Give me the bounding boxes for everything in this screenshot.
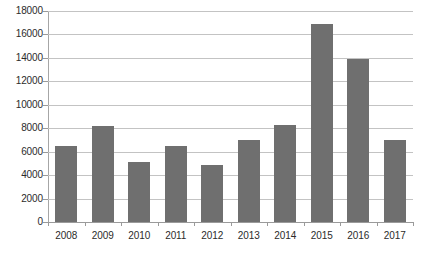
x-axis-tick-mark: [194, 222, 195, 226]
x-axis-tick-label: 2015: [304, 230, 341, 242]
x-axis: 2008200920102011201220132014201520162017: [48, 222, 413, 256]
y-axis-tick-label: 0: [0, 217, 43, 227]
bar: [201, 165, 223, 222]
y-axis-tick-label: 8000: [0, 123, 43, 133]
y-axis-tick-label: 4000: [0, 170, 43, 180]
x-axis-tick-mark: [340, 222, 341, 226]
bar: [165, 146, 187, 222]
x-axis-tick-mark: [85, 222, 86, 226]
x-axis-tick-label: 2011: [158, 230, 195, 242]
x-axis-tick-mark: [304, 222, 305, 226]
bars-group: [48, 11, 413, 222]
bar: [384, 140, 406, 222]
bar: [274, 125, 296, 222]
bar-slot: [340, 11, 377, 222]
bar-chart: 0200040006000800010000120001400016000180…: [0, 0, 427, 256]
bar-slot: [377, 11, 414, 222]
x-axis-tick-label: 2008: [48, 230, 85, 242]
bar-slot: [48, 11, 85, 222]
bar-slot: [231, 11, 268, 222]
x-axis-tick-mark: [267, 222, 268, 226]
bar: [128, 162, 150, 222]
x-axis-tick-mark: [121, 222, 122, 226]
x-axis-tick-mark: [231, 222, 232, 226]
x-axis-tick-label: 2016: [340, 230, 377, 242]
bar: [238, 140, 260, 222]
y-axis-tick-label: 6000: [0, 147, 43, 157]
bar-slot: [304, 11, 341, 222]
y-axis-tick-label: 16000: [0, 29, 43, 39]
bar: [55, 146, 77, 222]
bar-slot: [158, 11, 195, 222]
y-axis-tick-label: 12000: [0, 76, 43, 86]
bar: [92, 126, 114, 222]
x-axis-tick-mark: [48, 222, 49, 226]
x-axis-tick-label: 2017: [377, 230, 414, 242]
x-axis-tick-mark: [413, 222, 414, 226]
bar-slot: [121, 11, 158, 222]
y-axis-tick-label: 2000: [0, 194, 43, 204]
x-axis-tick-label: 2012: [194, 230, 231, 242]
bar-slot: [194, 11, 231, 222]
x-axis-tick-mark: [158, 222, 159, 226]
x-axis-tick-label: 2009: [85, 230, 122, 242]
bar-slot: [267, 11, 304, 222]
y-axis-tick-label: 18000: [0, 6, 43, 16]
bar-slot: [85, 11, 122, 222]
bar: [347, 59, 369, 222]
y-axis-tick-label: 10000: [0, 100, 43, 110]
x-axis-tick-label: 2013: [231, 230, 268, 242]
x-axis-tick-label: 2014: [267, 230, 304, 242]
x-axis-tick-mark: [377, 222, 378, 226]
y-axis-tick-label: 14000: [0, 53, 43, 63]
bar: [311, 24, 333, 222]
x-axis-tick-label: 2010: [121, 230, 158, 242]
